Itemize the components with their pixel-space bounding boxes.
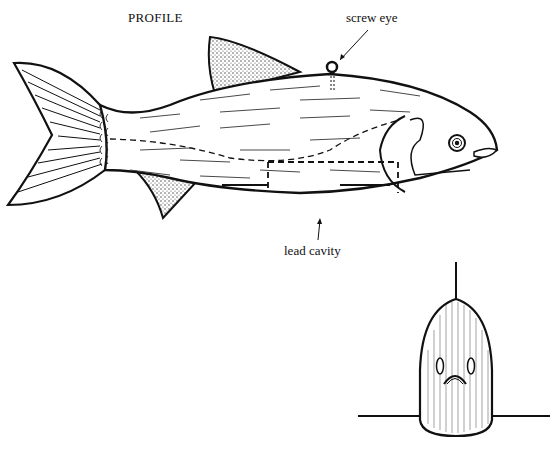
fish-body xyxy=(100,74,497,193)
screw-eye xyxy=(327,62,337,72)
front-eye-right xyxy=(468,358,475,374)
front-eye-left xyxy=(437,358,444,374)
fish-diagram xyxy=(0,0,559,463)
tail-fin xyxy=(8,63,105,205)
screw-eye-arrow xyxy=(340,30,368,60)
front-view xyxy=(358,262,550,436)
